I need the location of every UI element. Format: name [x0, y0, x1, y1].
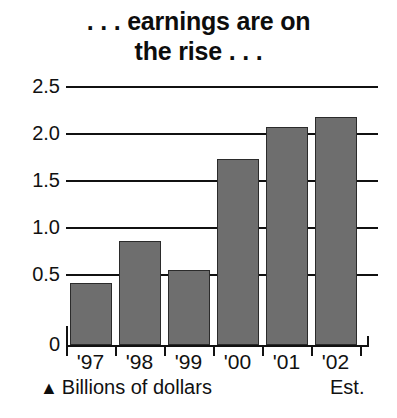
plot-area: [66, 86, 378, 345]
units-note: ▲Billions of dollars: [40, 375, 212, 400]
bar-97: [70, 283, 112, 345]
x-axis-label-02: '02: [311, 350, 360, 374]
x-axis-label-00: '00: [213, 350, 262, 374]
y-tick-label-0-5: 0.5: [12, 264, 60, 284]
units-note-text: Billions of dollars: [62, 376, 212, 398]
x-tick-6: [360, 345, 362, 356]
x-axis-label-97: '97: [66, 350, 115, 374]
x-axis-label-99: '99: [164, 350, 213, 374]
bar-98: [119, 241, 161, 345]
y-axis-stub: [66, 326, 68, 347]
bar-01: [266, 127, 308, 345]
y-tick-label-0: 0: [12, 334, 60, 354]
estimate-note: Est.: [330, 375, 364, 399]
bar-99: [168, 270, 210, 345]
y-tick-label-1-0: 1.0: [12, 217, 60, 237]
x-axis-line: [66, 345, 369, 347]
y-axis-labels: 2.5 2.0 1.5 1.0 0.5 0: [8, 0, 60, 418]
triangle-marker-icon: ▲: [40, 378, 58, 398]
x-axis-label-98: '98: [115, 350, 164, 374]
bar-02: [315, 117, 357, 345]
y-tick-label-2-5: 2.5: [12, 76, 60, 96]
y-tick-label-2-0: 2.0: [12, 123, 60, 143]
x-axis-end-cap: [367, 336, 369, 347]
x-axis-label-01: '01: [262, 350, 311, 374]
earnings-bar-chart: . . . earnings are on the rise . . . 2.5…: [0, 0, 397, 418]
y-tick-label-1-5: 1.5: [12, 170, 60, 190]
bars-layer: [66, 86, 378, 345]
bar-00: [217, 159, 259, 345]
